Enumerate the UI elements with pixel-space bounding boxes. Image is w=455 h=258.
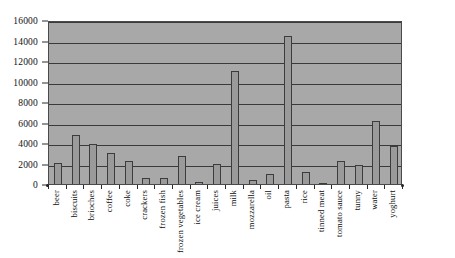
x-axis-category-label: coke xyxy=(123,190,132,207)
x-axis-labels: beerbiscuitsbriochescoffeecokecrackersfr… xyxy=(48,190,402,256)
x-axis-tick-mark xyxy=(207,185,208,189)
bar xyxy=(337,161,345,184)
bar xyxy=(355,165,363,184)
x-axis-category-label: tomato sauce xyxy=(335,190,344,237)
y-axis-tick-label: 12000 xyxy=(13,57,38,67)
x-axis-tick-mark xyxy=(101,185,102,189)
x-axis-tick-mark xyxy=(296,185,297,189)
bar xyxy=(142,178,150,184)
bar xyxy=(302,172,310,184)
x-axis-tick-mark xyxy=(367,185,368,189)
y-axis-tick-label: 0 xyxy=(33,180,38,190)
x-axis-tick-mark xyxy=(331,185,332,189)
x-axis-tick-mark xyxy=(190,185,191,189)
x-axis-category-label: frozen fish xyxy=(158,190,167,229)
bar xyxy=(319,183,327,184)
bar xyxy=(107,153,115,184)
x-axis-category-label: crackers xyxy=(140,190,149,220)
x-axis-tick-mark xyxy=(66,185,67,189)
bar xyxy=(213,164,221,185)
bars-layer xyxy=(49,22,401,184)
x-axis-tick-mark xyxy=(243,185,244,189)
x-axis-category-label: ice cream xyxy=(193,190,202,225)
x-axis-tick-mark xyxy=(225,185,226,189)
x-axis-category-label: coffee xyxy=(105,190,114,212)
x-axis-tick-mark xyxy=(119,185,120,189)
plot-area xyxy=(48,21,402,185)
x-axis-category-label: tunny xyxy=(353,190,362,210)
bar xyxy=(72,135,80,184)
x-axis-tick-mark xyxy=(260,185,261,189)
x-axis-tick-mark xyxy=(314,185,315,189)
bar xyxy=(160,178,168,184)
bar-chart: 0200040006000800010000120001400016000 be… xyxy=(0,0,455,258)
x-axis-origin-marker xyxy=(46,184,49,187)
x-axis-tick-mark xyxy=(172,185,173,189)
x-axis-tick-mark xyxy=(384,185,385,189)
x-axis-tick-mark xyxy=(137,185,138,189)
x-axis-category-label: pasta xyxy=(282,190,291,208)
y-axis-tick-label: 6000 xyxy=(18,119,38,129)
y-axis-tick-label: 2000 xyxy=(18,160,38,170)
bar xyxy=(125,161,133,184)
x-axis-category-label: oil xyxy=(264,190,273,200)
x-axis-category-label: brioches xyxy=(87,190,96,220)
bar xyxy=(195,182,203,184)
bar xyxy=(249,180,257,184)
bar xyxy=(372,121,380,184)
x-axis-category-label: beer xyxy=(52,190,61,205)
x-axis-category-label: mozzarella xyxy=(247,190,256,229)
x-axis-category-label: biscuits xyxy=(70,190,79,217)
x-axis-tick-mark xyxy=(278,185,279,189)
x-axis-category-label: rice xyxy=(300,190,309,203)
y-axis: 0200040006000800010000120001400016000 xyxy=(0,0,48,258)
y-axis-tick-label: 10000 xyxy=(13,78,38,88)
y-axis-tick-label: 8000 xyxy=(18,98,38,108)
x-axis-category-label: water xyxy=(370,190,379,210)
y-axis-tick-label: 14000 xyxy=(13,37,38,47)
bar xyxy=(54,163,62,184)
x-axis-tick-mark xyxy=(349,185,350,189)
y-axis-tick-label: 16000 xyxy=(13,16,38,26)
x-axis-category-label: juices xyxy=(211,190,220,211)
x-axis-tick-mark xyxy=(154,185,155,189)
y-axis-tick-label: 4000 xyxy=(18,139,38,149)
x-axis-category-label: milk xyxy=(229,190,238,206)
bar xyxy=(390,146,398,184)
x-axis-category-label: frozen vegetables xyxy=(176,190,185,253)
x-axis-category-label: tinned meat xyxy=(317,190,326,232)
bar xyxy=(231,71,239,184)
bar xyxy=(266,174,274,184)
bar xyxy=(89,144,97,184)
x-axis-tick-mark xyxy=(83,185,84,189)
x-axis-end-marker xyxy=(401,184,404,187)
bar xyxy=(284,36,292,184)
x-axis-category-label: yoghurt xyxy=(388,190,397,218)
bar xyxy=(178,156,186,184)
